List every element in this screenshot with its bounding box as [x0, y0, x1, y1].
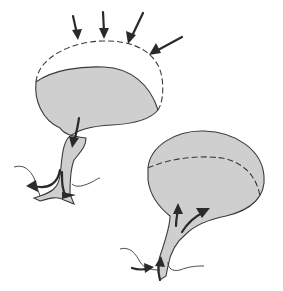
- arrowhead-icon: [144, 263, 154, 273]
- compression-arrows: [72, 12, 182, 55]
- filled-bladder-panel: [120, 131, 264, 280]
- arrowhead-icon: [99, 28, 109, 39]
- compression-arrow-4: [158, 37, 182, 50]
- bladder-compression-diagram: [0, 0, 283, 291]
- duct-trailing-line-right: [168, 262, 204, 271]
- full-volume-shape: [148, 131, 264, 280]
- duct-trailing-line-right: [72, 178, 100, 186]
- arrowhead-icon: [26, 180, 38, 192]
- outflow-arrow-left: [34, 170, 60, 187]
- compression-arrow-3: [132, 13, 143, 36]
- arrowhead-icon: [72, 29, 82, 40]
- duct-trailing-line-left: [120, 248, 160, 270]
